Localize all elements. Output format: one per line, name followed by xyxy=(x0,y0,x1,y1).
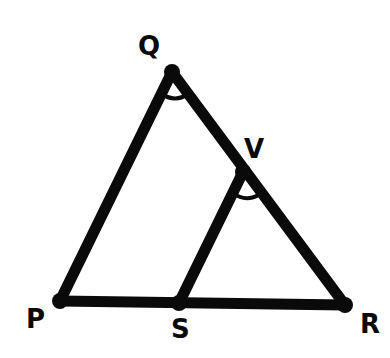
vertex-s xyxy=(171,295,187,311)
segment-pr xyxy=(60,301,345,305)
label-q: Q xyxy=(138,31,160,61)
vertex-v xyxy=(235,164,251,180)
vertex-r xyxy=(337,297,353,313)
segment-pq xyxy=(60,72,172,301)
label-r: R xyxy=(360,309,380,339)
triangle-diagram: Q V P S R xyxy=(0,0,390,358)
label-v: V xyxy=(244,134,264,164)
vertex-q xyxy=(164,64,180,80)
vertex-p xyxy=(52,293,68,309)
angle-mark-q xyxy=(162,94,188,99)
label-p: P xyxy=(26,304,45,334)
label-s: S xyxy=(171,314,190,344)
segment-sv xyxy=(179,172,243,303)
